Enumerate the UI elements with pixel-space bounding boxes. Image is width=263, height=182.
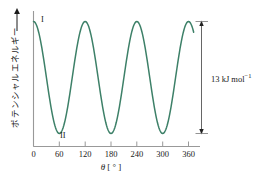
potential-energy-figure: ポテンシャルエネルギー bbox=[0, 0, 263, 182]
x-tick-label-120: 120 bbox=[79, 149, 92, 159]
x-axis-title: θ[ ° ] bbox=[101, 162, 122, 172]
barrier-energy-exponent: −1 bbox=[245, 72, 252, 79]
x-tick-label-300: 300 bbox=[156, 149, 169, 159]
x-tick-label-240: 240 bbox=[130, 149, 143, 159]
barrier-energy-value: 13 kJ mol bbox=[211, 74, 245, 84]
barrier-arrow bbox=[196, 21, 209, 135]
barrier-energy-label: 13 kJ mol−1 bbox=[211, 72, 251, 84]
x-tick-label-360: 360 bbox=[182, 149, 195, 159]
potential-energy-curve bbox=[34, 22, 194, 134]
x-tick-label-0: 0 bbox=[31, 149, 35, 159]
x-tick-label-180: 180 bbox=[105, 149, 118, 159]
x-axis bbox=[34, 142, 201, 147]
x-axis-title-symbol: θ bbox=[101, 162, 105, 172]
minimum-label-II: II bbox=[60, 130, 66, 140]
maximum-label-I: I bbox=[41, 14, 44, 24]
x-tick-label-60: 60 bbox=[55, 149, 64, 159]
x-axis-ticks bbox=[34, 142, 189, 147]
y-axis-arrow-icon bbox=[14, 8, 20, 31]
x-axis-title-unit: [ ° ] bbox=[107, 162, 121, 172]
